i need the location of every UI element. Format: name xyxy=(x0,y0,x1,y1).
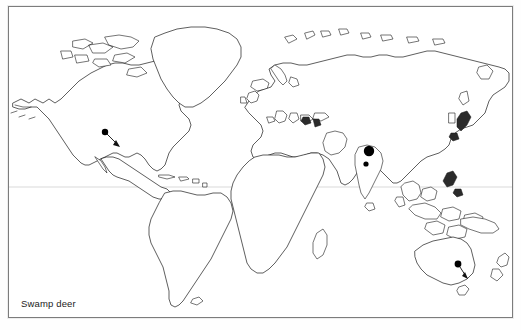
islands-caribbean xyxy=(159,175,207,187)
map-frame: Swamp deer xyxy=(8,6,513,318)
islands-new-zealand xyxy=(491,253,509,281)
map-caption: Swamp deer xyxy=(21,298,76,310)
landmass-africa xyxy=(231,153,325,273)
world-map xyxy=(9,7,512,317)
distribution-dot-australia xyxy=(455,261,462,268)
island-madagascar xyxy=(313,229,327,259)
islands-arctic-specks xyxy=(285,29,445,45)
landmass-south-america xyxy=(149,191,233,307)
distribution-dot-india-secondary xyxy=(363,161,368,166)
islands-falklands xyxy=(191,297,203,305)
island-tasmania xyxy=(457,285,469,295)
distribution-dot-india-main xyxy=(364,146,374,156)
figure-panel: Swamp deer xyxy=(0,0,521,330)
islands-southeast-asia xyxy=(395,181,483,239)
islands-british-isles xyxy=(241,91,259,103)
island-sri-lanka xyxy=(365,203,375,211)
islands-philippines xyxy=(443,171,463,197)
distribution-dot-north-america xyxy=(102,129,108,135)
